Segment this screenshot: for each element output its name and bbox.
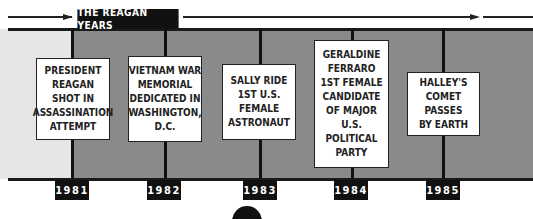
year-label-1981: 1981 bbox=[55, 180, 89, 200]
event-box-1981: PRESIDENT REAGAN SHOT IN ASSASSINATION A… bbox=[36, 58, 110, 140]
arrowhead-left-icon bbox=[63, 14, 73, 20]
event-box-1984: GERALDINE FERRARO 1ST FEMALE CANDIDATE O… bbox=[314, 40, 389, 168]
year-label-1985: 1985 bbox=[426, 180, 460, 200]
event-box-1982: VIETNAM WAR MEMORIAL DEDICATED IN WASHIN… bbox=[128, 56, 202, 142]
arrow-line-right bbox=[483, 16, 533, 18]
year-label-1982: 1982 bbox=[147, 180, 181, 200]
year-label-1984: 1984 bbox=[334, 180, 368, 200]
timeline-title: THE REAGAN YEARS bbox=[77, 9, 178, 29]
section-marker-circle bbox=[232, 206, 262, 219]
arrowhead-right-icon bbox=[470, 14, 480, 20]
arrow-line-middle bbox=[183, 16, 473, 18]
event-box-1983: SALLY RIDE 1ST U.S. FEMALE ASTRONAUT bbox=[222, 64, 296, 140]
year-label-1983: 1983 bbox=[243, 180, 277, 200]
event-box-1985: HALLEY'S COMET PASSES BY EARTH bbox=[407, 72, 480, 136]
